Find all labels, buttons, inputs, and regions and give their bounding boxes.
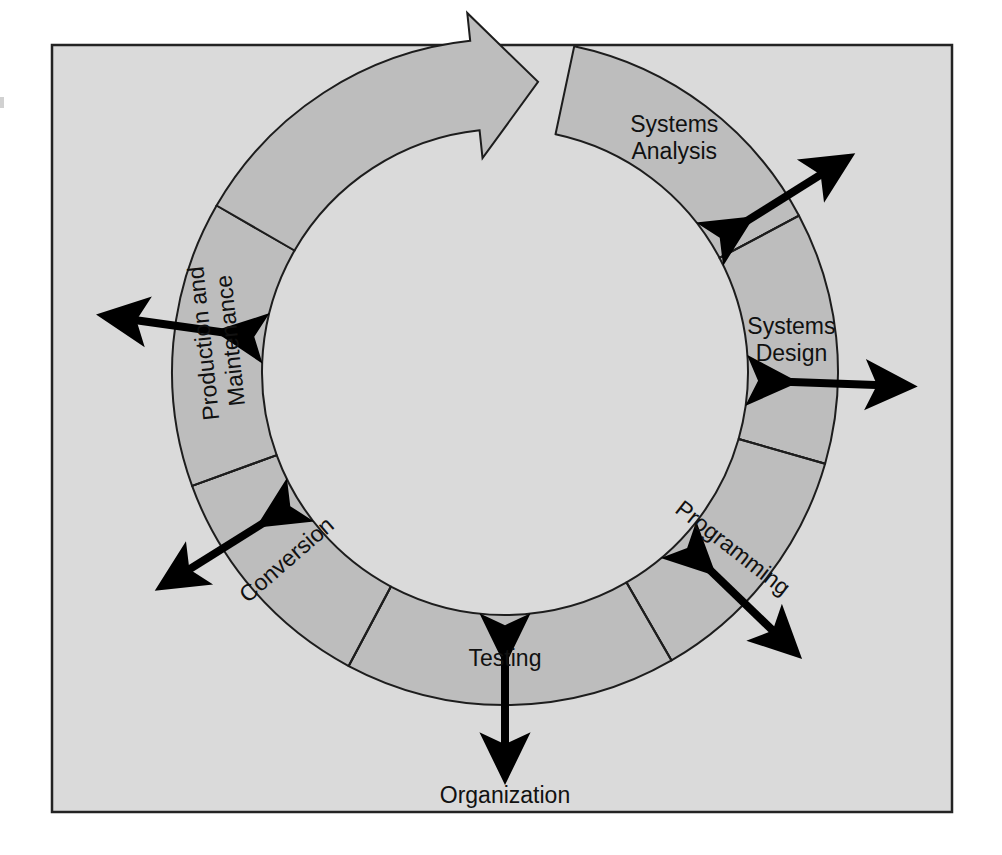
band-label-text: Analysis	[631, 138, 717, 164]
outside-label-organization: Organization	[440, 782, 570, 808]
band-label-text: Systems	[630, 111, 718, 137]
band-label-text: Design	[756, 340, 828, 366]
band-label-text: Testing	[469, 645, 542, 671]
double-arrow-systems-design	[771, 381, 890, 385]
band-label-testing: Testing	[469, 645, 542, 671]
band-label-text: Systems	[747, 313, 835, 339]
band-label-systems-design: SystemsDesign	[747, 313, 835, 366]
band-label-systems-analysis: SystemsAnalysis	[630, 111, 718, 164]
life-cycle-diagram: SystemsAnalysisSystemsDesignProgrammingT…	[0, 0, 1002, 855]
figure-root: SystemsAnalysisSystemsDesignProgrammingT…	[0, 0, 1002, 855]
